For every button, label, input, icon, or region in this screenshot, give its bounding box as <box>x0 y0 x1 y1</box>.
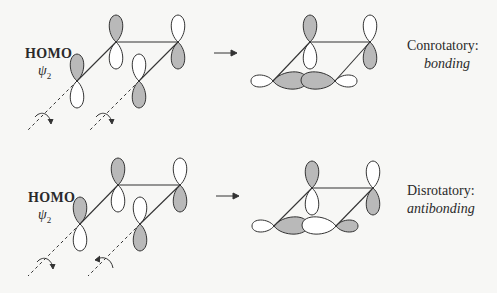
homo-label-bottom: HOMO <box>28 190 75 206</box>
psi-subscript: 2 <box>47 215 52 225</box>
disrotatory-product <box>252 161 380 234</box>
mode-label-top: Conrotatory: <box>407 38 479 54</box>
disrotatory-reactant <box>28 158 187 276</box>
psi2-label-bottom: ψ2 <box>38 207 51 225</box>
psi2-label-top: ψ2 <box>38 63 51 81</box>
psi-symbol: ψ <box>38 63 47 78</box>
reaction-arrow-top <box>214 50 237 56</box>
electrocyclic-diagram: HOMO ψ2 Conrotatory: bonding HOMO ψ2 Dis… <box>0 0 497 293</box>
psi-subscript: 2 <box>47 71 52 81</box>
result-label-top: bonding <box>424 56 470 72</box>
conrotatory-product <box>251 15 377 89</box>
psi-symbol: ψ <box>38 207 47 222</box>
homo-label-top: HOMO <box>25 46 72 62</box>
result-label-bottom: antibonding <box>407 201 475 217</box>
reaction-arrow-bottom <box>216 193 239 199</box>
mode-label-bottom: Disrotatory: <box>407 183 475 199</box>
